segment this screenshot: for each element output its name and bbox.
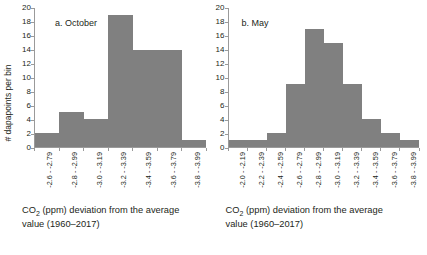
caption-line2: value (1960–2017)	[226, 219, 304, 229]
x-tick-label: -3.8 - -3.99	[182, 150, 207, 198]
x-tick-label-text: -3.6 - -3.79	[391, 152, 398, 188]
y-tick-label: 16	[22, 32, 31, 40]
panel-title-october: a. October	[55, 18, 97, 28]
x-tick-label-text: -3.0 - -3.19	[96, 152, 103, 188]
y-tick-mark	[225, 120, 228, 121]
y-tick-mark	[31, 22, 34, 23]
x-tick-labels-may: -2.0 - -2.19-2.2 - -2.39-2.4 - -2.59-2.6…	[230, 150, 420, 198]
y-tick-label: 18	[22, 18, 31, 26]
y-tick-mark	[31, 134, 34, 135]
x-tick-label-text: -3.8 - -3.99	[194, 152, 201, 188]
y-tick-label: 16	[216, 32, 225, 40]
bar	[324, 43, 343, 147]
bar	[286, 84, 305, 147]
x-tick-label-text: -3.6 - -3.79	[170, 152, 177, 188]
x-tick-label: -3.0 - -3.19	[324, 150, 343, 198]
x-tick-label: -2.4 - -2.59	[267, 150, 286, 198]
x-tick-label: -3.8 - -3.99	[400, 150, 419, 198]
y-tick-mark	[31, 92, 34, 93]
panel-october: # dapapoints per bin 02468101214161820 a…	[0, 0, 214, 255]
x-tick-label: -2.0 - -2.19	[230, 150, 249, 198]
x-tick-labels-october: -2.6 - -2.79-2.8 - -2.99-3.0 - -3.19-3.2…	[34, 150, 207, 198]
x-tick-label: -3.4 - -3.59	[362, 150, 381, 198]
x-tick-mark	[228, 148, 229, 151]
bar	[182, 140, 206, 147]
bar-series-may	[229, 8, 419, 147]
y-tick-label: 10	[22, 74, 31, 82]
bar	[229, 140, 248, 147]
caption-co2: CO	[22, 205, 36, 215]
x-tick-label: -3.0 - -3.19	[83, 150, 108, 198]
bar-series-october	[35, 8, 206, 147]
y-tick-mark	[31, 120, 34, 121]
y-tick-mark	[225, 134, 228, 135]
histogram-figure: # dapapoints per bin 02468101214161820 a…	[0, 0, 427, 255]
bar	[343, 84, 362, 147]
caption-line2: value (1960–2017)	[22, 219, 100, 229]
x-tick-label-text: -2.8 - -2.99	[315, 152, 322, 188]
x-axis-line	[34, 147, 206, 148]
x-tick-label: -3.2 - -3.39	[343, 150, 362, 198]
x-tick-label-text: -3.4 - -3.59	[145, 152, 152, 188]
x-tick-label: -3.6 - -3.79	[157, 150, 182, 198]
y-axis-label-october: # dapapoints per bin	[0, 8, 15, 198]
y-tick-label: 14	[216, 46, 225, 54]
x-tick-label: -3.4 - -3.59	[133, 150, 158, 198]
caption-rest: (ppm) deviation from the average	[243, 205, 383, 215]
bar	[248, 140, 267, 147]
x-tick-label: -2.2 - -2.39	[248, 150, 267, 198]
bar	[362, 119, 381, 147]
x-tick-label-text: -2.0 - -2.19	[239, 152, 246, 188]
y-tick-mark	[225, 64, 228, 65]
x-tick-label-text: -2.6 - -2.79	[296, 152, 303, 188]
panel-may: 02468101214161820 b. May -2.0 - -2.19-2.…	[214, 0, 427, 255]
x-tick-label-text: -2.6 - -2.79	[46, 152, 53, 188]
x-tick-label: -2.8 - -2.99	[59, 150, 84, 198]
y-tick-mark	[225, 36, 228, 37]
x-tick-label-text: -2.4 - -2.59	[277, 152, 284, 188]
bar	[157, 50, 181, 147]
y-tick-label: 12	[22, 60, 31, 68]
x-tick-label-text: -2.8 - -2.99	[71, 152, 78, 188]
panel-title-may: b. May	[242, 18, 269, 28]
axes-october	[34, 8, 206, 148]
y-tick-mark	[31, 36, 34, 37]
bar	[84, 119, 108, 147]
x-tick-label: -3.2 - -3.39	[108, 150, 133, 198]
y-tick-label: 12	[216, 60, 225, 68]
x-tick-label-text: -3.2 - -3.39	[353, 152, 360, 188]
x-tick-label-text: -3.2 - -3.39	[120, 152, 127, 188]
y-tick-mark	[31, 8, 34, 9]
y-tick-mark	[31, 106, 34, 107]
bar	[267, 133, 286, 147]
bar	[35, 133, 59, 147]
y-tick-mark	[225, 92, 228, 93]
x-axis-caption-may: CO2 (ppm) deviation from the average val…	[226, 205, 408, 231]
y-tick-label: 20	[216, 4, 225, 12]
x-tick-label: -2.8 - -2.99	[305, 150, 324, 198]
bar	[133, 50, 157, 147]
x-tick-label-text: -3.0 - -3.19	[334, 152, 341, 188]
x-tick-label-text: -2.2 - -2.39	[258, 152, 265, 188]
axes-may	[228, 8, 419, 148]
x-tick-label: -3.6 - -3.79	[381, 150, 400, 198]
bar	[59, 112, 83, 147]
caption-co2: CO	[226, 205, 240, 215]
y-tick-mark	[225, 78, 228, 79]
bar	[400, 140, 419, 147]
bar	[381, 133, 400, 147]
y-tick-label: 10	[216, 74, 225, 82]
y-tick-mark	[225, 22, 228, 23]
y-tick-mark	[225, 50, 228, 51]
y-tick-label: 14	[22, 46, 31, 54]
caption-rest: (ppm) deviation from the average	[40, 205, 180, 215]
y-tick-mark	[31, 50, 34, 51]
y-tick-label: 20	[22, 4, 31, 12]
y-tick-mark	[31, 64, 34, 65]
y-axis-label-text: # dapapoints per bin	[3, 64, 13, 141]
x-axis-caption-october: CO2 (ppm) deviation from the average val…	[22, 205, 204, 231]
x-tick-label: -2.6 - -2.79	[34, 150, 59, 198]
x-tick-label: -2.6 - -2.79	[286, 150, 305, 198]
x-tick-label-text: -3.8 - -3.99	[410, 152, 417, 188]
bar	[305, 29, 324, 147]
